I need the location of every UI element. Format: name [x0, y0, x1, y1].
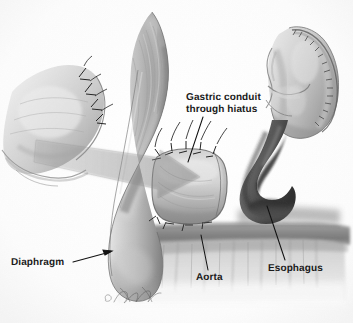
- anatomy-artwork: [0, 0, 353, 323]
- label-diaphragm: Diaphragm: [11, 257, 64, 269]
- label-gastric-conduit-line1: Gastric conduit: [186, 92, 261, 103]
- label-gastric-conduit-line2: through hiatus: [186, 104, 257, 115]
- paper-grain: [0, 0, 353, 323]
- label-esophagus: Esophagus: [268, 263, 323, 275]
- label-gastric-conduit: Gastric conduitthrough hiatus: [186, 92, 261, 115]
- medical-illustration-figure: Gastric conduitthrough hiatus Diaphragm …: [0, 0, 353, 323]
- label-aorta: Aorta: [196, 272, 223, 284]
